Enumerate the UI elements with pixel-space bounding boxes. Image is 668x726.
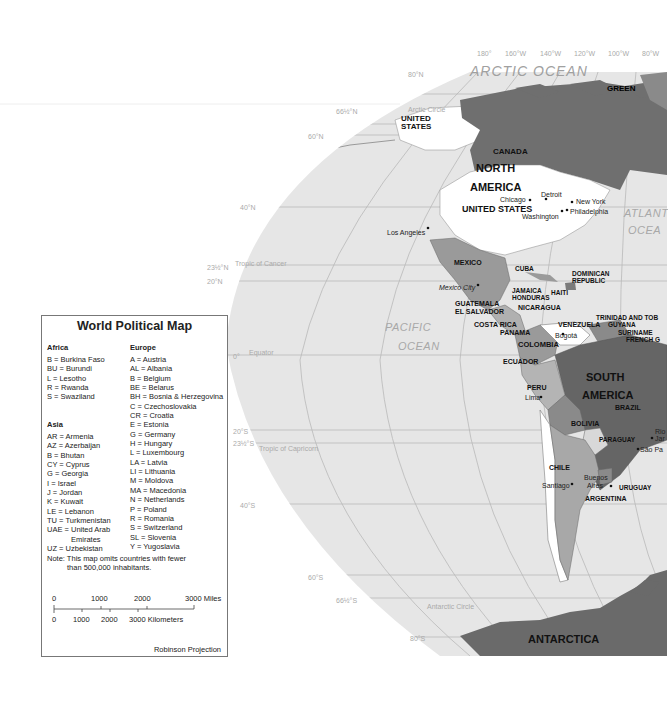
legend-item: BE = Belarus <box>130 383 223 392</box>
legend-item: G = Georgia <box>47 469 111 478</box>
legend-item: R = Rwanda <box>47 383 105 392</box>
legend-heading-asia: Asia <box>47 420 63 429</box>
legend-item: M = Moldova <box>130 476 223 485</box>
legend-list-africa: B = Burkina Faso BU = Burundi L = Lesoth… <box>47 355 105 402</box>
legend-heading-africa: Africa <box>47 343 68 352</box>
scale-km-0: 0 <box>52 615 56 624</box>
scale-miles-0: 0 <box>52 594 56 603</box>
legend-item: AR = Armenia <box>47 432 111 441</box>
legend-item: Y = Yugoslavia <box>130 542 223 551</box>
legend-item: UAE = United Arab <box>47 525 111 534</box>
legend-item: S = Swaziland <box>47 392 105 401</box>
legend-note-line-2: than 500,000 inhabitants. <box>47 563 186 572</box>
scale-km-2000: 2000 <box>101 615 118 624</box>
legend-item: G = Germany <box>130 430 223 439</box>
legend-item: C = Czechoslovakia <box>130 402 223 411</box>
scale-km-1000: 1000 <box>73 615 90 624</box>
legend-item: LI = Lithuania <box>130 467 223 476</box>
legend-item: B = Burkina Faso <box>47 355 105 364</box>
legend-item: S = Switzerland <box>130 523 223 532</box>
projection-label: Robinson Projection <box>154 645 221 654</box>
legend-box: World Political Map Africa B = Burkina F… <box>41 315 228 657</box>
legend-item: UZ = Uzbekistan <box>47 544 111 553</box>
legend-item: A = Austria <box>130 355 223 364</box>
legend-item: E = Estonia <box>130 420 223 429</box>
legend-heading-europe: Europe <box>130 343 156 352</box>
legend-item: LE = Lebanon <box>47 507 111 516</box>
scale-miles-2000: 2000 <box>134 594 151 603</box>
legend-item: L = Lesotho <box>47 374 105 383</box>
legend-item: P = Poland <box>130 505 223 514</box>
legend-item: B = Bhutan <box>47 451 111 460</box>
legend-item: I = Israel <box>47 479 111 488</box>
scale-ruler <box>42 604 229 614</box>
legend-note-line-1: Note: This map omits countries with fewe… <box>47 554 186 563</box>
legend-item: J = Jordan <box>47 488 111 497</box>
legend-item: AL = Albania <box>130 364 223 373</box>
legend-item: AZ = Azerbaijan <box>47 441 111 450</box>
legend-item: Emirates <box>47 535 111 544</box>
legend-item: K = Kuwait <box>47 497 111 506</box>
scale-miles-1000: 1000 <box>91 594 108 603</box>
legend-list-asia: AR = Armenia AZ = Azerbaijan B = Bhutan … <box>47 432 111 553</box>
scale-km-3000: 3000 Kilometers <box>129 615 183 624</box>
legend-list-europe: A = Austria AL = Albania B = Belgium BE … <box>130 355 223 551</box>
legend-item: CY = Cyprus <box>47 460 111 469</box>
legend-note: Note: This map omits countries with fewe… <box>47 554 186 572</box>
legend-item: L = Luxembourg <box>130 448 223 457</box>
legend-item: R = Romania <box>130 514 223 523</box>
legend-item: B = Belgium <box>130 374 223 383</box>
legend-item: N = Netherlands <box>130 495 223 504</box>
scale-miles-3000: 3000 Miles <box>185 594 221 603</box>
legend-item: MA = Macedonia <box>130 486 223 495</box>
legend-title: World Political Map <box>42 319 227 333</box>
legend-item: BH = Bosnia & Herzegovina <box>130 392 223 401</box>
legend-item: TU = Turkmenistan <box>47 516 111 525</box>
legend-item: CR = Croatia <box>130 411 223 420</box>
legend-item: BU = Burundi <box>47 364 105 373</box>
legend-item: H = Hungary <box>130 439 223 448</box>
legend-item: SL = Slovenia <box>130 533 223 542</box>
legend-item: LA = Latvia <box>130 458 223 467</box>
